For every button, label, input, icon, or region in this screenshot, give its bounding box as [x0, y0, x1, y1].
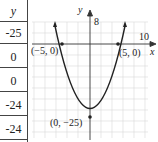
- point-vertex: [88, 115, 92, 119]
- x-axis-label: x: [150, 47, 154, 57]
- left-intercept-label: (−5, 0): [31, 46, 58, 56]
- point-right-intercept: [116, 42, 120, 46]
- x-tick-label: 10: [139, 32, 149, 42]
- right-intercept-label: (5, 0): [119, 48, 141, 58]
- table-cell: -25: [0, 22, 27, 44]
- parabola-graph: y 8 10 x (−5, 0) (5, 0) (0, −25): [28, 0, 158, 142]
- table-header-y: y: [0, 0, 27, 22]
- y-tick-label: 8: [94, 17, 99, 27]
- values-table: y -25 0 0 -24 -24: [0, 0, 28, 142]
- graph-canvas: [28, 0, 158, 142]
- y-axis-label: y: [78, 5, 82, 15]
- table-cell: 0: [0, 70, 27, 92]
- table-cell: -24: [0, 118, 27, 140]
- point-left-intercept: [60, 42, 64, 46]
- vertex-label: (0, −25): [50, 118, 82, 128]
- table-cell: -24: [0, 94, 27, 116]
- table-cell: 0: [0, 46, 27, 68]
